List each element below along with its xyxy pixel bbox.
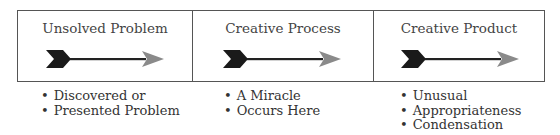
stage-creative-process: Creative Process xyxy=(192,11,373,81)
bullet-item: Condensation xyxy=(400,118,522,133)
bullet-item: Unusual xyxy=(400,89,522,104)
bullet-item: Presented Problem xyxy=(41,104,180,119)
arrow-icon xyxy=(46,49,164,69)
bullet-item: Occurs Here xyxy=(224,104,320,119)
bullet-item: Discovered or xyxy=(41,89,180,104)
bullet-list-unsolved-problem: Discovered or Presented Problem xyxy=(41,89,180,118)
stage-creative-product: Creative Product xyxy=(373,11,544,81)
stages-frame: Unsolved Problem Creative Process Creati… xyxy=(17,10,545,82)
stage-unsolved-problem: Unsolved Problem xyxy=(18,11,192,81)
bullet-list-creative-process: A Miracle Occurs Here xyxy=(224,89,320,118)
arrow-icon xyxy=(401,49,519,69)
stage-title: Unsolved Problem xyxy=(18,20,192,36)
bullet-list-creative-product: Unusual Appropriateness Condensation xyxy=(400,89,522,133)
bullet-item: Appropriateness xyxy=(400,104,522,119)
arrow-icon xyxy=(223,49,341,69)
stage-title: Creative Process xyxy=(193,20,373,36)
bullet-item: A Miracle xyxy=(224,89,320,104)
stage-title: Creative Product xyxy=(374,20,544,36)
